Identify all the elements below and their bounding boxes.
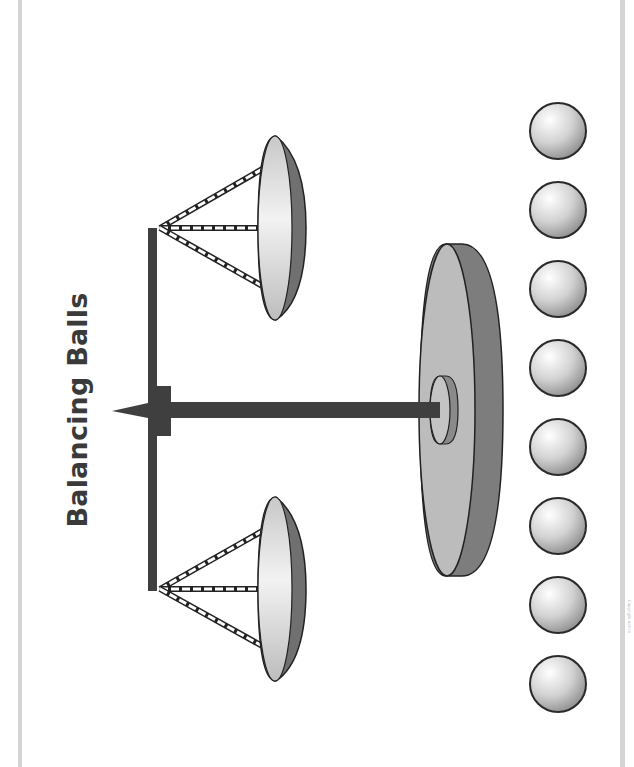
ball-2[interactable]	[530, 182, 586, 238]
scale-beam	[148, 228, 157, 591]
upper-pan	[258, 136, 306, 320]
ball-8[interactable]	[530, 656, 586, 712]
ball-7[interactable]	[530, 577, 586, 633]
pointer-needle	[112, 403, 148, 418]
scale-post	[168, 402, 440, 418]
ball-3[interactable]	[530, 261, 586, 317]
ball-1[interactable]	[530, 103, 586, 159]
balance-scale-diagram	[0, 0, 634, 767]
beam-pivot	[157, 386, 171, 436]
ball-5[interactable]	[530, 419, 586, 475]
balls-group	[530, 103, 586, 712]
ball-6[interactable]	[530, 498, 586, 554]
lower-pan	[258, 497, 306, 681]
ball-4[interactable]	[530, 340, 586, 396]
